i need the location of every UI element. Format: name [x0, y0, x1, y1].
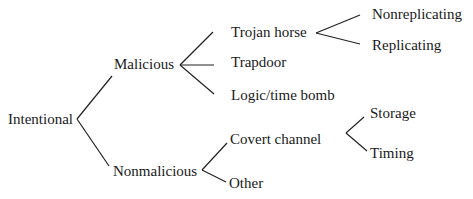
edge-intentional-malicious	[77, 76, 112, 119]
node-logic-time-bomb: Logic/time bomb	[231, 88, 335, 103]
node-storage: Storage	[370, 106, 416, 121]
edge-nonmalicious-covert-channel	[202, 143, 227, 170]
node-timing: Timing	[370, 146, 414, 161]
node-other: Other	[229, 176, 263, 191]
node-nonreplicating: Nonreplicating	[372, 7, 462, 22]
node-nonmalicious: Nonmalicious	[113, 164, 197, 179]
edge-trojan-replicating	[316, 33, 360, 44]
node-malicious: Malicious	[114, 57, 174, 72]
edge-nonmalicious-other	[202, 170, 226, 182]
edge-covert-timing	[346, 133, 367, 151]
node-replicating: Replicating	[372, 38, 441, 53]
edge-malicious-logic-time-bomb	[180, 65, 214, 94]
node-trojan-horse: Trojan horse	[231, 25, 307, 40]
edge-malicious-trojan-horse	[180, 32, 213, 65]
edge-intentional-nonmalicious	[77, 119, 109, 166]
node-covert-channel: Covert channel	[230, 132, 321, 147]
edge-covert-storage	[346, 117, 364, 133]
node-intentional: Intentional	[8, 112, 73, 127]
edge-trojan-nonreplicating	[316, 15, 360, 33]
taxonomy-tree-diagram: Intentional Malicious Nonmalicious Troja…	[0, 0, 473, 199]
node-trapdoor: Trapdoor	[231, 55, 286, 70]
